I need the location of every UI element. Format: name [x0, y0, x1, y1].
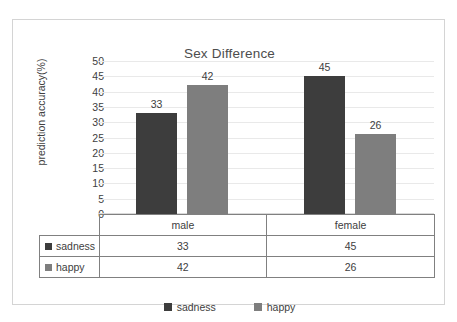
- chart-frame: Sex Difference prediction accuracy(%) 50…: [12, 19, 445, 305]
- table-row-label-text: sadness: [56, 240, 95, 252]
- table-cell-sadness-female: 45: [267, 236, 435, 257]
- table-row: happy4226: [40, 257, 435, 278]
- chart-legend: sadnesshappy: [13, 301, 446, 313]
- bar-female-happy: [355, 134, 396, 214]
- gridline-45: [98, 76, 434, 77]
- legend-label: happy: [267, 301, 296, 313]
- bar-female-sadness: [304, 76, 345, 214]
- table-cell-sadness-male: 33: [99, 236, 267, 257]
- legend-item-happy[interactable]: happy: [254, 301, 296, 313]
- plot-area: 33424526: [98, 61, 434, 214]
- bar-male-sadness: [136, 113, 177, 214]
- gray-square-icon: [254, 303, 262, 311]
- table-cell-happy-female: 26: [267, 257, 435, 278]
- table-row-label-sadness: sadness: [40, 236, 100, 257]
- table-col-header-male: male: [99, 215, 267, 236]
- bar-male-happy: [187, 85, 228, 214]
- table-header-row: malefemale: [40, 215, 435, 236]
- bar-value-male-happy: 42: [202, 70, 214, 82]
- table-row: sadness3345: [40, 236, 435, 257]
- table-cell-happy-male: 42: [99, 257, 267, 278]
- gridline-40: [98, 92, 434, 93]
- bar-value-male-sadness: 33: [151, 98, 163, 110]
- bar-value-female-happy: 26: [370, 119, 382, 131]
- y-axis-title: prediction accuracy(%): [35, 37, 47, 187]
- chart-screenshot: Sex Difference prediction accuracy(%) 50…: [0, 0, 457, 322]
- gridline-50: [98, 61, 434, 62]
- dark-square-icon: [164, 303, 172, 311]
- table-col-header-female: female: [267, 215, 435, 236]
- legend-label: sadness: [177, 301, 216, 313]
- table-corner-blank: [40, 215, 100, 236]
- bar-value-female-sadness: 45: [319, 61, 331, 73]
- gray-square-icon: [45, 264, 52, 271]
- table-row-label-happy: happy: [40, 257, 100, 278]
- table-row-label-text: happy: [56, 261, 85, 273]
- gridline-35: [98, 107, 434, 108]
- data-table: malefemalesadness3345happy4226: [39, 214, 435, 278]
- dark-square-icon: [45, 243, 52, 250]
- legend-item-sadness[interactable]: sadness: [164, 301, 216, 313]
